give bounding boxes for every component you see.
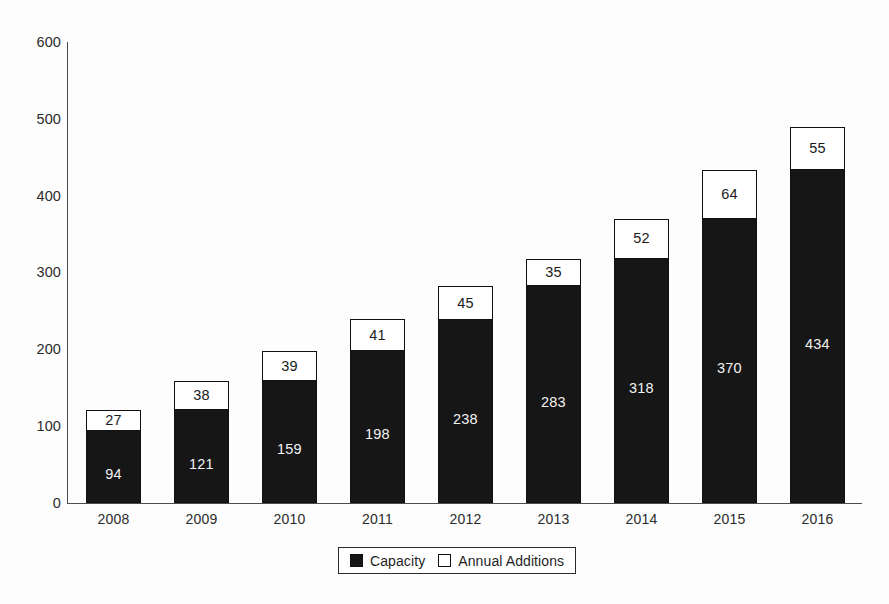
bar-stack-2016: 43455 (790, 127, 845, 503)
bar-value-annual-additions-2015: 64 (721, 187, 738, 202)
x-tick-label-2012: 2012 (426, 512, 505, 526)
bar-value-capacity-2015: 370 (717, 361, 742, 376)
y-tick-label-400: 400 (15, 189, 61, 204)
bar-group-2016: 43455 (790, 127, 845, 503)
x-tick-label-2010: 2010 (250, 512, 329, 526)
bar-segment-capacity-2012[interactable]: 238 (438, 320, 493, 503)
bar-value-annual-additions-2014: 52 (633, 231, 650, 246)
bar-segment-annual-additions-2008[interactable]: 27 (86, 410, 141, 431)
legend-label-capacity: Capacity (370, 554, 425, 568)
bar-value-annual-additions-2010: 39 (281, 359, 298, 374)
x-tick-label-2013: 2013 (514, 512, 593, 526)
bar-value-annual-additions-2016: 55 (809, 141, 826, 156)
bar-group-2012: 23845 (438, 286, 493, 503)
bar-group-2008: 9427 (86, 410, 141, 503)
bar-stack-2009: 12138 (174, 381, 229, 503)
bar-value-annual-additions-2008: 27 (105, 413, 122, 428)
bar-value-capacity-2016: 434 (805, 337, 830, 352)
bar-stack-2008: 9427 (86, 410, 141, 503)
bar-value-capacity-2014: 318 (629, 381, 654, 396)
bar-value-annual-additions-2009: 38 (193, 388, 210, 403)
bar-value-annual-additions-2013: 35 (545, 265, 562, 280)
x-tick-label-2008: 2008 (74, 512, 153, 526)
x-tick-label-2011: 2011 (338, 512, 417, 526)
bar-segment-capacity-2016[interactable]: 434 (790, 170, 845, 503)
bar-value-annual-additions-2012: 45 (457, 296, 474, 311)
y-tick-label-500: 500 (15, 112, 61, 127)
bar-group-2010: 15939 (262, 351, 317, 503)
bar-segment-annual-additions-2010[interactable]: 39 (262, 351, 317, 381)
y-tick-label-200: 200 (15, 342, 61, 357)
x-tick-label-2014: 2014 (602, 512, 681, 526)
bar-segment-annual-additions-2011[interactable]: 41 (350, 319, 405, 351)
bar-value-capacity-2009: 121 (189, 457, 214, 472)
bar-stack-2014: 31852 (614, 219, 669, 503)
bar-segment-annual-additions-2009[interactable]: 38 (174, 381, 229, 410)
x-tick-label-2015: 2015 (690, 512, 769, 526)
x-tick-label-2009: 2009 (162, 512, 241, 526)
bar-stack-2011: 19841 (350, 319, 405, 503)
bar-group-2014: 31852 (614, 219, 669, 503)
bar-segment-capacity-2013[interactable]: 283 (526, 286, 581, 503)
chart-legend: Capacity Annual Additions (338, 547, 576, 574)
legend-swatch-annual-additions-icon (438, 554, 451, 567)
bar-segment-annual-additions-2012[interactable]: 45 (438, 286, 493, 321)
bar-group-2013: 28335 (526, 259, 581, 503)
legend-label-annual-additions: Annual Additions (458, 554, 564, 568)
bar-segment-capacity-2009[interactable]: 121 (174, 410, 229, 503)
bar-segment-capacity-2008[interactable]: 94 (86, 431, 141, 503)
x-tick-label-2016: 2016 (778, 512, 857, 526)
bar-segment-annual-additions-2013[interactable]: 35 (526, 259, 581, 286)
legend-item-capacity[interactable]: Capacity (350, 554, 425, 568)
bar-group-2009: 12138 (174, 381, 229, 503)
bar-stack-2015: 37064 (702, 170, 757, 503)
bar-segment-annual-additions-2014[interactable]: 52 (614, 219, 669, 259)
bar-segment-annual-additions-2015[interactable]: 64 (702, 170, 757, 219)
bar-segment-capacity-2010[interactable]: 159 (262, 381, 317, 503)
bar-segment-capacity-2011[interactable]: 198 (350, 351, 405, 503)
legend-swatch-capacity-icon (350, 554, 363, 567)
bar-stack-2010: 15939 (262, 351, 317, 503)
y-tick-label-0: 0 (15, 496, 61, 511)
bar-segment-capacity-2014[interactable]: 318 (614, 259, 669, 503)
bar-value-capacity-2010: 159 (277, 442, 302, 457)
chart-container: 600 500 400 300 200 100 0 94271213815939… (0, 0, 889, 604)
bar-stack-2013: 28335 (526, 259, 581, 503)
bar-value-capacity-2012: 238 (453, 412, 478, 427)
x-axis-line (67, 503, 862, 504)
bar-value-capacity-2008: 94 (105, 467, 122, 482)
bar-segment-capacity-2015[interactable]: 370 (702, 219, 757, 503)
bar-stack-2012: 23845 (438, 286, 493, 503)
y-tick-label-600: 600 (15, 35, 61, 50)
y-tick-label-300: 300 (15, 265, 61, 280)
bar-value-annual-additions-2011: 41 (369, 328, 386, 343)
bar-group-2015: 37064 (702, 170, 757, 503)
bar-segment-annual-additions-2016[interactable]: 55 (790, 127, 845, 169)
bar-value-capacity-2011: 198 (365, 427, 390, 442)
bar-value-capacity-2013: 283 (541, 395, 566, 410)
bars-layer: 9427121381593919841238452833531852370644… (67, 42, 860, 503)
legend-item-annual-additions[interactable]: Annual Additions (438, 554, 564, 568)
bar-group-2011: 19841 (350, 319, 405, 503)
y-axis-tick-labels: 600 500 400 300 200 100 0 (9, 0, 61, 604)
y-tick-label-100: 100 (15, 419, 61, 434)
